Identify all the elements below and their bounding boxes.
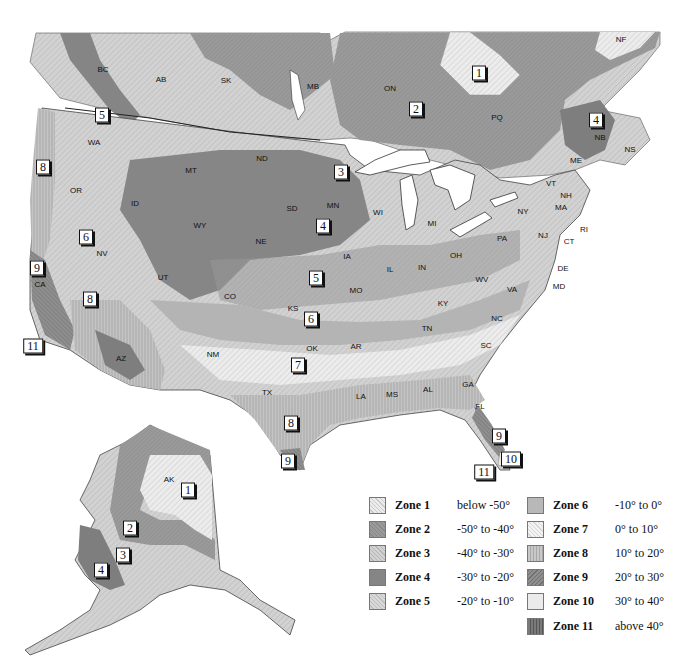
zone-label: Zone 7 — [553, 522, 615, 537]
region-label-ky: KY — [438, 299, 449, 308]
zone-10-swatch — [527, 593, 544, 610]
legend-item-zone-7: Zone 7 0° to 10° — [527, 519, 658, 539]
zone-label: Zone 3 — [395, 546, 457, 561]
zone-4-swatch — [369, 569, 386, 586]
region-label-mb: MB — [307, 82, 319, 91]
region-label-ct: CT — [564, 237, 575, 246]
legend-item-zone-4: Zone 4 -30° to -20° — [369, 567, 514, 587]
region-label-ga: GA — [462, 380, 474, 389]
zone-marker: 11 — [474, 465, 494, 480]
region-label-tx: TX — [262, 388, 272, 397]
zone-range: -20° to -10° — [457, 594, 514, 609]
zone-2-swatch — [369, 521, 386, 538]
region-label-nh: NH — [560, 191, 572, 200]
legend-item-zone-3: Zone 3 -40° to -30° — [369, 543, 514, 563]
zone-label: Zone 5 — [395, 594, 457, 609]
zone-marker: 3 — [116, 548, 130, 563]
region-label-wa: WA — [88, 138, 101, 147]
region-label-wy: WY — [194, 221, 207, 230]
zone-marker: 8 — [36, 160, 50, 175]
zone-marker: 5 — [95, 108, 109, 123]
region-label-nc: NC — [491, 314, 503, 323]
region-label-on: ON — [384, 84, 396, 93]
legend-item-zone-5: Zone 5 -20° to -10° — [369, 591, 514, 611]
zone-range: -50° to -40° — [457, 522, 514, 537]
region-label-ny: NY — [517, 207, 528, 216]
region-label-ca: CA — [34, 280, 45, 289]
legend-item-zone-9: Zone 9 20° to 30° — [527, 567, 664, 587]
region-label-ns: NS — [624, 145, 635, 154]
region-label-ut: UT — [158, 273, 169, 282]
region-label-ri: RI — [580, 225, 588, 234]
zone-label: Zone 8 — [553, 546, 615, 561]
region-label-ms: MS — [386, 390, 398, 399]
zone-8-swatch — [527, 545, 544, 562]
region-label-pa: PA — [497, 234, 507, 243]
zone-range: -10° to 0° — [615, 498, 662, 513]
region-label-wi: WI — [373, 208, 383, 217]
region-label-me: ME — [570, 156, 582, 165]
zone-6-swatch — [527, 497, 544, 514]
region-label-nm: NM — [207, 350, 219, 359]
region-label-il: IL — [387, 265, 394, 274]
zone-marker: 2 — [123, 521, 137, 536]
region-label-nv: NV — [96, 249, 107, 258]
zone-label: Zone 2 — [395, 522, 457, 537]
zone-marker: 4 — [94, 563, 108, 578]
legend: Zone 1 below -50° Zone 2 -50° to -40° Zo… — [369, 495, 669, 655]
region-label-bc: BC — [97, 65, 108, 74]
zone-label: Zone 6 — [553, 498, 615, 513]
zone-range: below -50° — [457, 498, 510, 513]
zone-marker: 9 — [492, 429, 506, 444]
region-label-oh: OH — [450, 251, 462, 260]
region-label-la: LA — [356, 392, 366, 401]
region-label-tn: TN — [422, 324, 433, 333]
region-label-wv: WV — [476, 275, 489, 284]
zone-marker: 8 — [83, 292, 97, 307]
zone-range: 30° to 40° — [615, 594, 664, 609]
zone-3-swatch — [369, 545, 386, 562]
region-label-or: OR — [70, 186, 82, 195]
region-label-sk: SK — [221, 76, 232, 85]
region-label-ks: KS — [288, 304, 299, 313]
legend-item-zone-8: Zone 8 10° to 20° — [527, 543, 664, 563]
region-label-pq: PQ — [491, 113, 503, 122]
zone-marker: 10 — [501, 452, 521, 467]
legend-item-zone-1: Zone 1 below -50° — [369, 495, 510, 515]
zone-range: 0° to 10° — [615, 522, 658, 537]
zone-range: -30° to -20° — [457, 570, 514, 585]
region-label-co: CO — [224, 292, 236, 301]
zone-marker: 5 — [309, 271, 323, 286]
zone-9-swatch — [527, 569, 544, 586]
zone-marker: 2 — [409, 102, 423, 117]
zone-1-swatch — [369, 497, 386, 514]
zone-marker: 1 — [472, 66, 486, 81]
region-label-nd: ND — [256, 154, 268, 163]
region-label-fl: FL — [475, 402, 484, 411]
zone-label: Zone 4 — [395, 570, 457, 585]
region-label-ia: IA — [343, 252, 351, 261]
region-label-nf: NF — [616, 35, 627, 44]
region-label-ar: AR — [350, 342, 361, 351]
region-label-vt: VT — [546, 179, 556, 188]
region-label-va: VA — [507, 285, 517, 294]
lake-superior — [355, 150, 430, 175]
zone-marker: 3 — [334, 165, 348, 180]
region-label-ok: OK — [306, 344, 318, 353]
zone-marker: 6 — [304, 312, 318, 327]
region-label-al: AL — [423, 385, 433, 394]
legend-item-zone-2: Zone 2 -50° to -40° — [369, 519, 514, 539]
legend-item-zone-10: Zone 10 30° to 40° — [527, 591, 664, 611]
region-label-ab: AB — [156, 75, 167, 84]
zone-marker: 7 — [291, 358, 305, 373]
zone-7-swatch — [527, 521, 544, 538]
zone-label: Zone 9 — [553, 570, 615, 585]
region-label-sd: SD — [286, 204, 297, 213]
legend-item-zone-6: Zone 6 -10° to 0° — [527, 495, 662, 515]
zone-marker: 1 — [181, 483, 195, 498]
region-label-in: IN — [418, 263, 426, 272]
region-label-mo: MO — [350, 286, 363, 295]
zone-5-swatch — [369, 593, 386, 610]
region-label-az: AZ — [116, 354, 126, 363]
zone-11-swatch — [527, 618, 544, 635]
